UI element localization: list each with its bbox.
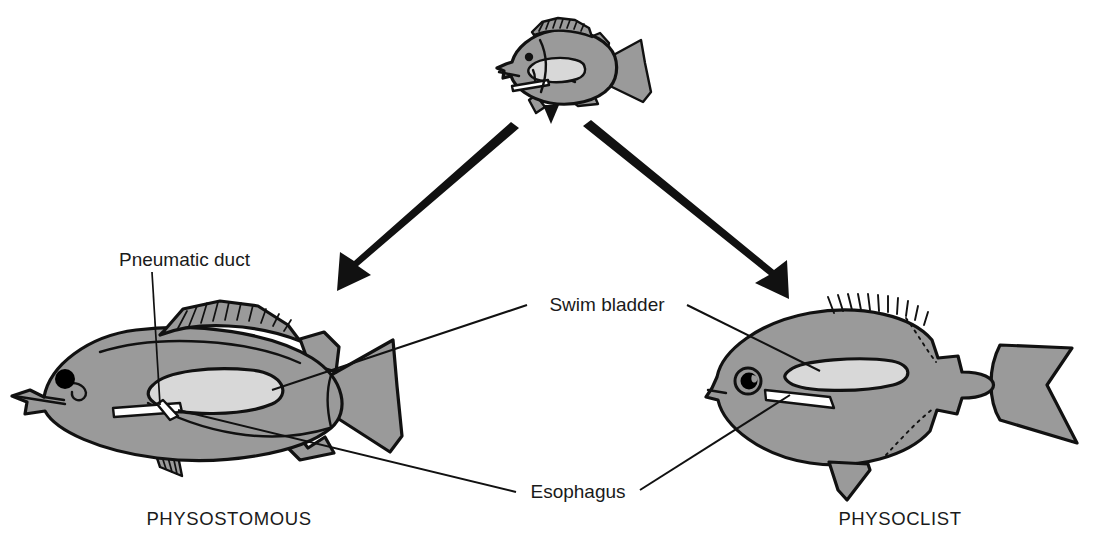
arrow-to-physostomous [337, 122, 519, 291]
caption-physostomous: PHYSOSTOMOUS [146, 508, 311, 529]
label-esophagus: Esophagus [530, 481, 625, 502]
label-swim-bladder: Swim bladder [549, 294, 665, 315]
physostomous-eye [55, 369, 75, 389]
ancestor-eye [525, 53, 533, 61]
swim-bladder-diagram: Pneumatic duct Swim bladder Esophagus PH… [0, 0, 1108, 552]
arrow-to-physoclist [583, 120, 789, 299]
ancestor-fish [497, 18, 651, 113]
physoclist-fish [706, 294, 1077, 500]
ancestor-swim-bladder [528, 58, 585, 82]
label-pneumatic-duct: Pneumatic duct [119, 249, 251, 270]
caption-physoclist: PHYSOCLIST [838, 508, 961, 529]
diagram-canvas: Pneumatic duct Swim bladder Esophagus PH… [0, 0, 1108, 552]
physoclist-tail-fin [991, 345, 1077, 443]
physoclist-pelvic-fin [829, 462, 870, 500]
ancestor-arrow-stem [543, 105, 559, 124]
